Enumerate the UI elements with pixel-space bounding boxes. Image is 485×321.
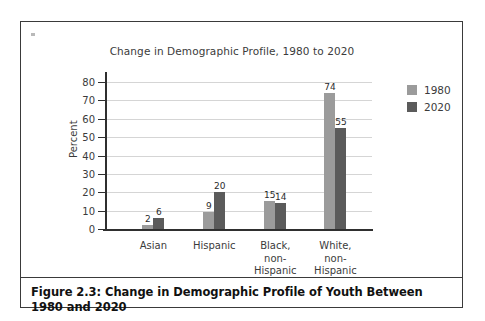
y-axis-tick-label: 80	[82, 77, 95, 88]
plot-area: 01020304050607080 26Asian920Hispanic1514…	[107, 82, 372, 229]
legend-label: 1980	[424, 84, 451, 96]
y-axis-tick-label: 20	[82, 187, 95, 198]
x-axis-category-label: Asian	[140, 240, 167, 253]
bar-group: 1514Black, non- Hispanic	[264, 82, 286, 229]
figure-divider	[20, 277, 463, 278]
bar-group: 7455White, non- Hispanic	[324, 82, 346, 229]
bar-1980-2[interactable]: 15	[264, 201, 275, 229]
bar-1980-3[interactable]: 74	[324, 93, 335, 229]
y-axis-tick	[98, 119, 105, 120]
y-axis-tick	[98, 156, 105, 157]
bar-group: 920Hispanic	[203, 82, 225, 229]
y-axis-tick-label: 0	[89, 224, 95, 235]
bar-value-label: 15	[264, 190, 275, 201]
bar-2020-3[interactable]: 55	[335, 128, 346, 229]
chart-title: Change in Demographic Profile, 1980 to 2…	[22, 45, 442, 57]
y-axis-line	[105, 72, 107, 229]
bar-chart: Change in Demographic Profile, 1980 to 2…	[22, 23, 461, 276]
bar-value-label: 2	[145, 214, 151, 225]
bar-value-label: 55	[335, 117, 346, 128]
bar-value-label: 6	[156, 207, 162, 218]
y-axis-title: Percent	[68, 120, 79, 158]
y-axis-tick	[98, 174, 105, 175]
x-axis-category-label: Black, non- Hispanic	[254, 240, 297, 278]
y-axis-tick	[98, 211, 105, 212]
bar-value-label: 20	[214, 181, 225, 192]
y-axis-tick-label: 50	[82, 132, 95, 143]
bar-group: 26Asian	[142, 82, 164, 229]
bar-value-label: 9	[206, 201, 212, 212]
y-axis-tick	[98, 192, 105, 193]
x-axis-category-label: White, non- Hispanic	[314, 240, 357, 278]
y-axis-tick	[98, 137, 105, 138]
bar-1980-0[interactable]: 2	[142, 225, 153, 229]
figure-caption: Figure 2.3: Change in Demographic Profil…	[31, 285, 456, 315]
legend-label: 2020	[424, 101, 451, 113]
y-axis-tick-label: 70	[82, 95, 95, 106]
bar-2020-2[interactable]: 14	[275, 203, 286, 229]
y-axis-tick	[98, 229, 105, 230]
legend-item-2020[interactable]: 2020	[407, 98, 451, 115]
bar-value-label: 74	[324, 82, 335, 93]
legend-swatch-icon	[407, 85, 417, 95]
y-axis-tick-label: 30	[82, 168, 95, 179]
y-axis-tick	[98, 100, 105, 101]
chart-legend: 19802020	[407, 81, 451, 115]
x-axis-line	[103, 229, 373, 231]
y-axis-tick	[98, 82, 105, 83]
legend-item-1980[interactable]: 1980	[407, 81, 451, 98]
bar-2020-0[interactable]: 6	[153, 218, 164, 229]
bar-2020-1[interactable]: 20	[214, 192, 225, 229]
x-axis-category-label: Hispanic	[193, 240, 236, 253]
y-axis-tick-label: 40	[82, 150, 95, 161]
bar-value-label: 14	[275, 192, 286, 203]
bar-1980-1[interactable]: 9	[203, 212, 214, 229]
legend-swatch-icon	[407, 102, 417, 112]
y-axis-tick-label: 10	[82, 205, 95, 216]
y-axis-tick-label: 60	[82, 113, 95, 124]
